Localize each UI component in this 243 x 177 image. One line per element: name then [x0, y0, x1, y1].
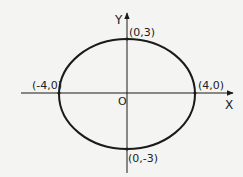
- y-axis-label: Y: [114, 13, 123, 27]
- bottom-vertex-label: (0,-3): [128, 152, 158, 165]
- origin-label: O: [118, 95, 127, 108]
- point-bottom: [125, 147, 128, 150]
- x-axis-label: X: [225, 98, 233, 112]
- point-right: [193, 91, 196, 94]
- right-vertex-label: (4,0): [198, 79, 224, 92]
- ellipse-diagram: Y X O (0,3) (0,-3) (-4,0) (4,0): [0, 0, 243, 177]
- left-vertex-label: (-4,0): [32, 79, 62, 92]
- top-vertex-label: (0,3): [129, 26, 155, 39]
